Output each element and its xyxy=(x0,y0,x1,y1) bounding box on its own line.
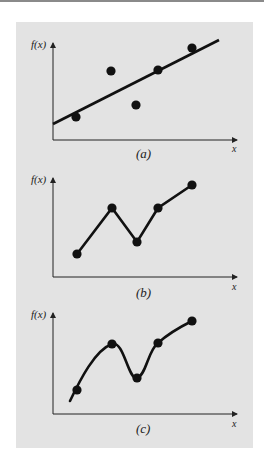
y-axis-label: f(x) xyxy=(31,308,47,321)
data-point xyxy=(153,203,162,212)
data-point xyxy=(187,316,196,325)
data-point xyxy=(131,100,140,109)
panel-caption: (b) xyxy=(136,285,151,300)
data-point xyxy=(106,66,115,75)
data-point xyxy=(153,65,162,74)
data-point xyxy=(187,43,196,52)
x-axis-label: x xyxy=(231,281,237,292)
panel-caption: (c) xyxy=(136,421,150,436)
data-point xyxy=(187,180,196,189)
figure-svg: f(x) x (a) f(x) x (b) f(x) x (c) xyxy=(0,0,264,468)
data-point xyxy=(72,385,81,394)
regression-line xyxy=(53,40,219,124)
y-axis-label: f(x) xyxy=(31,38,47,51)
data-point xyxy=(71,112,80,121)
y-axis-label: f(x) xyxy=(31,173,47,186)
data-point xyxy=(107,203,116,212)
data-point xyxy=(107,339,116,348)
curvilinear-interpolation xyxy=(70,321,192,401)
data-point xyxy=(132,373,141,382)
plot-a: f(x) x (a) xyxy=(31,38,237,161)
data-point xyxy=(153,338,162,347)
plot-c: f(x) x (c) xyxy=(31,308,237,436)
x-axis-label: x xyxy=(231,418,237,429)
x-axis-label: x xyxy=(231,143,237,154)
data-point xyxy=(72,249,81,258)
data-point xyxy=(132,237,141,246)
plot-b: f(x) x (b) xyxy=(31,173,237,300)
panel-caption: (a) xyxy=(136,146,151,161)
